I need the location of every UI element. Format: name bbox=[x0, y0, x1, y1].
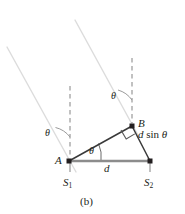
label-source-s1: S1 bbox=[63, 177, 72, 189]
theta-arc-vertex-a bbox=[99, 144, 102, 162]
interference-geometry-figure: A B θ θ θ d sin θ d S1 S2 (b) bbox=[0, 0, 185, 214]
ray-from-b-line bbox=[75, 20, 139, 137]
theta-arc-upper-right bbox=[118, 90, 132, 100]
dot-point-a bbox=[67, 159, 72, 164]
label-source-s1-subscript: 1 bbox=[69, 181, 73, 190]
ray-from-a-line bbox=[7, 47, 76, 172]
light-rays-group bbox=[7, 20, 139, 172]
label-theta-upper-right: θ bbox=[111, 91, 116, 101]
label-point-a: A bbox=[55, 155, 62, 166]
figure-canvas bbox=[0, 0, 185, 214]
figure-caption: (b) bbox=[80, 196, 93, 207]
source-ticks-group bbox=[70, 163, 150, 172]
label-slit-separation: d bbox=[104, 163, 110, 174]
label-path-difference-sin: sin bbox=[144, 128, 162, 140]
label-source-s2: S2 bbox=[144, 177, 153, 189]
dot-point-s2 bbox=[148, 159, 153, 164]
dot-point-b bbox=[130, 124, 135, 129]
label-path-difference-theta: θ bbox=[162, 128, 167, 140]
label-theta-vertex-a: θ bbox=[89, 146, 94, 156]
label-path-difference: d sin θ bbox=[138, 129, 167, 140]
theta-arc-upper-left bbox=[56, 128, 71, 138]
label-theta-upper-left: θ bbox=[45, 128, 50, 138]
label-source-s2-subscript: 2 bbox=[150, 181, 154, 190]
segment-a-b bbox=[69, 126, 132, 161]
